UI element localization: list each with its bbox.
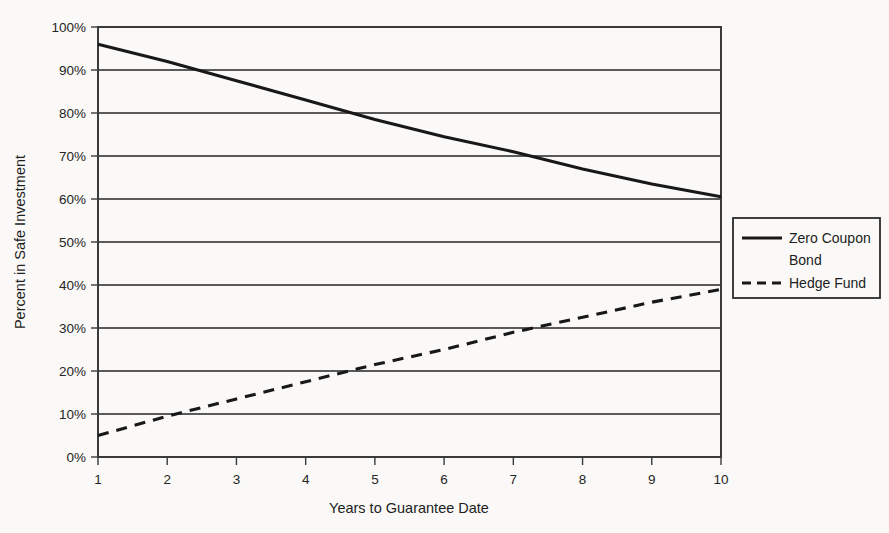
y-tick-label-100: 100% [51, 20, 86, 35]
x-axis-title: Years to Guarantee Date [329, 500, 489, 516]
x-tick-label-10: 10 [713, 472, 728, 487]
chart-container: 0%10%20%30%40%50%60%70%80%90%100% 123456… [0, 0, 889, 533]
y-tick-label-70: 70% [59, 149, 86, 164]
y-axis-title: Percent in Safe Investment [12, 155, 28, 329]
y-tick-label-0: 0% [66, 450, 86, 465]
x-tick-label-7: 7 [510, 472, 518, 487]
y-tick-label-40: 40% [59, 278, 86, 293]
y-tick-label-60: 60% [59, 192, 86, 207]
legend: Zero Coupon Bond Hedge Fund [733, 218, 880, 298]
line-chart: 0%10%20%30%40%50%60%70%80%90%100% 123456… [0, 0, 889, 533]
y-axis: 0%10%20%30%40%50%60%70%80%90%100% [51, 20, 98, 465]
x-tick-label-1: 1 [94, 472, 102, 487]
y-tick-label-10: 10% [59, 407, 86, 422]
legend-label-hedge-fund: Hedge Fund [789, 275, 866, 291]
y-tick-label-80: 80% [59, 106, 86, 121]
legend-label-zero-coupon-line1: Zero Coupon [789, 230, 871, 246]
x-tick-label-9: 9 [648, 472, 656, 487]
x-tick-label-8: 8 [579, 472, 587, 487]
x-tick-label-5: 5 [371, 472, 379, 487]
x-tick-label-4: 4 [302, 472, 310, 487]
legend-label-zero-coupon-line2: Bond [789, 252, 822, 268]
y-tick-label-20: 20% [59, 364, 86, 379]
x-axis: 12345678910 [94, 457, 728, 487]
y-tick-label-90: 90% [59, 63, 86, 78]
gridlines [98, 70, 721, 414]
series-line-zero-coupon-bond [98, 44, 721, 197]
x-tick-label-2: 2 [163, 472, 171, 487]
x-tick-label-6: 6 [440, 472, 448, 487]
y-tick-label-50: 50% [59, 235, 86, 250]
x-tick-label-3: 3 [233, 472, 241, 487]
y-tick-label-30: 30% [59, 321, 86, 336]
